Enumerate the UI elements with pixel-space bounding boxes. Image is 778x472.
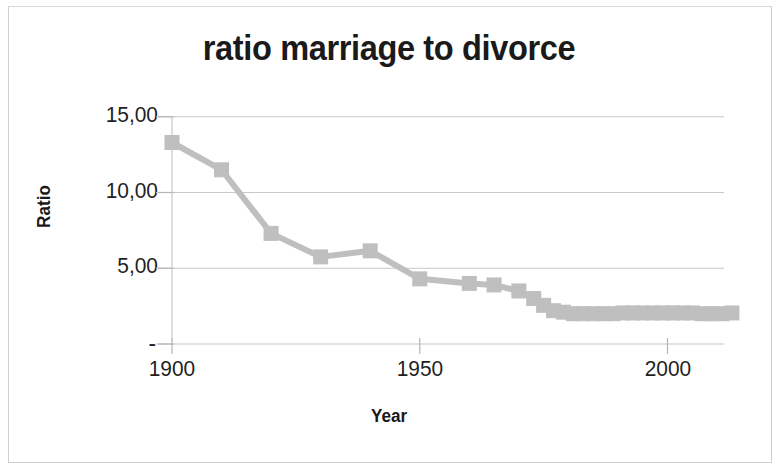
series-polyline	[172, 143, 732, 314]
data-markers	[165, 135, 740, 321]
data-point-marker	[511, 283, 526, 298]
chart-figure: ratio marriage to divorce Ratio Year -5,…	[0, 0, 778, 472]
data-line	[172, 143, 732, 314]
data-point-marker	[462, 276, 477, 291]
data-point-marker	[724, 305, 739, 320]
data-point-marker	[214, 162, 229, 177]
data-point-marker	[313, 249, 328, 264]
data-point-marker	[264, 226, 279, 241]
plot-area	[0, 0, 778, 472]
data-point-marker	[363, 243, 378, 258]
data-point-marker	[487, 277, 502, 292]
data-point-marker	[412, 271, 427, 286]
data-point-marker	[165, 135, 180, 150]
